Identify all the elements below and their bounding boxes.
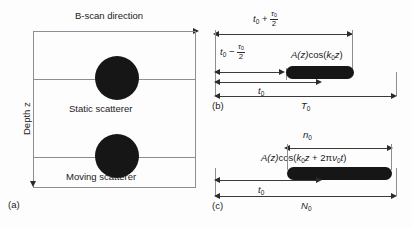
- panel-c-n0-line: [287, 148, 391, 149]
- panel-b-top-measure-line: [215, 34, 352, 35]
- panel-b-signal-expression: A(z)cos(k0z): [291, 50, 343, 61]
- figure-root: B-scan direction Depth z Static scattere…: [0, 0, 412, 227]
- panel-b-second-arrow-right-icon: [279, 69, 285, 75]
- depth-axis-label: Depth z: [22, 102, 32, 135]
- panel-c-n0-label: n0: [303, 130, 312, 141]
- static-scatterer-label: Static scatterer: [69, 104, 132, 114]
- panel-c-right-guide: [396, 168, 397, 196]
- static-scatterer-shape: [95, 56, 139, 100]
- panel-c-N0-arrow-right-icon: [391, 193, 397, 199]
- panel-b-second-measure-line: [217, 72, 283, 73]
- panel-b-signal-bar: [286, 66, 354, 79]
- moving-scatterer-label: Moving scatterer: [66, 172, 136, 182]
- panel-c-signal-bar: [287, 167, 392, 180]
- panel-b: t0 + τ02 t0 − τ02 A(z)cos(k0z): [206, 0, 412, 115]
- panel-c-bar-start-guide: [287, 144, 288, 170]
- panel-b-t0-line: [217, 82, 319, 83]
- panel-c-N0-arrow-left-icon: [214, 193, 220, 199]
- panel-a-label: (a): [8, 200, 20, 210]
- depth-arrow-icon: [30, 181, 36, 187]
- panel-b-second-arrow-left-icon: [214, 69, 220, 75]
- panel-b-T0-line: [217, 96, 394, 97]
- b-scan-direction-label: B-scan direction: [75, 11, 143, 21]
- panel-c-label: (c): [212, 201, 223, 211]
- panel-b-right-guide: [352, 30, 353, 72]
- panel-c-signal-expression: A(z)cos(k0z + 2πν0t): [261, 153, 346, 164]
- panel-b-left-guide: [215, 30, 216, 96]
- panel-b-T0-label: T0: [301, 101, 310, 112]
- panel-c-bar-end-guide: [391, 144, 392, 170]
- panel-c-t0-label: t0: [258, 185, 264, 196]
- panel-b-T0-arrow-left-icon: [214, 93, 220, 99]
- panel-b-second-measure-label: t0 − τ02: [220, 43, 245, 61]
- panel-c-t0-arrow-right-icon: [316, 177, 322, 183]
- panel-b-top-arrow-left-icon: [213, 31, 219, 37]
- depth-axis: [33, 31, 34, 183]
- panel-a: B-scan direction Depth z Static scattere…: [0, 0, 206, 227]
- panel-c-N0-label: N0: [301, 201, 311, 212]
- panel-c: n0 A(z)cos(k0z + 2πν0t) t0 N0 (c): [206, 115, 412, 227]
- panel-b-label: (b): [212, 101, 224, 111]
- panel-c-t0-arrow-left-icon: [214, 177, 220, 183]
- panel-b-T0-arrow-right-icon: [391, 93, 397, 99]
- panel-b-t0-arrow-right-icon: [316, 79, 322, 85]
- panel-c-n0-arrow-right-icon: [387, 145, 393, 151]
- panel-c-t0-line: [217, 180, 319, 181]
- panel-b-t0-arrow-left-icon: [214, 79, 220, 85]
- panel-c-N0-line: [217, 196, 394, 197]
- panel-b-top-measure-label: t0 + τ02: [253, 10, 278, 28]
